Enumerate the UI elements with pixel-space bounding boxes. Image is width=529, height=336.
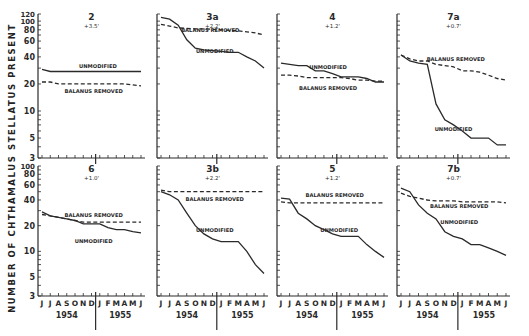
x-tick-label: J — [407, 299, 411, 308]
balanus-removed-line — [42, 82, 141, 86]
y-axis-label-text: NUMBER OF CHTHAMALUS STELLATUS PRESENT — [7, 23, 17, 313]
x-tick-label: A — [486, 299, 492, 308]
panel-title: 7b — [447, 164, 460, 174]
x-tick-label: O — [433, 299, 439, 308]
panel-title: 4 — [329, 12, 335, 22]
x-tick-label: J — [262, 299, 266, 308]
panel-6: 100806040201053JJASONDJFMAMJ195419556+1.… — [20, 163, 145, 330]
x-tick-label: N — [80, 299, 86, 308]
y-tick-label: 5 — [29, 273, 35, 282]
unmodified-label: UNMODIFIED — [440, 219, 478, 225]
unmodified-label: UNMODIFIED — [196, 48, 234, 54]
x-tick-label: F — [347, 299, 352, 308]
x-tick-label: J — [382, 299, 386, 308]
y-tick-label: 60 — [24, 181, 36, 190]
balanus-removed-line — [281, 202, 384, 203]
x-tick-label: J — [460, 299, 464, 308]
x-tick-label: M — [494, 299, 501, 308]
x-tick-label: M — [355, 299, 362, 308]
x-tick-label: A — [244, 299, 250, 308]
x-tick-label: A — [175, 299, 181, 308]
x-tick-label: A — [56, 299, 62, 308]
panel-title: 3b — [206, 164, 219, 174]
chart-figure: NUMBER OF CHTHAMALUS STELLATUS PRESENT 1… — [0, 0, 529, 336]
panel-7a: 7a+0.7'UNMODIFIEDBALANUS REMOVED — [397, 12, 510, 164]
panel-subtitle: +1.2' — [325, 175, 340, 181]
panel-subtitle: +0.7' — [446, 23, 461, 29]
balanus-removed-label: BALANUS REMOVED — [186, 196, 245, 202]
y-axis-label: NUMBER OF CHTHAMALUS STELLATUS PRESENT — [2, 0, 22, 336]
unmodified-line — [42, 69, 141, 71]
x-tick-label: D — [88, 299, 94, 308]
y-tick-label: 20 — [24, 222, 36, 231]
unmodified-label: UNMODIFIED — [196, 227, 234, 233]
x-tick-label: J — [219, 299, 223, 308]
year-label: 1955 — [351, 311, 374, 320]
y-tick-label: 80 — [24, 26, 36, 35]
balanus-removed-line — [161, 190, 264, 192]
x-tick-label: J — [279, 299, 283, 308]
x-tick-label: N — [442, 299, 448, 308]
x-tick-label: A — [295, 299, 301, 308]
panel-2: 1201008060402010532+3.5'UNMODIFIEDBALANU… — [20, 11, 145, 164]
balanus-removed-label: BALANUS REMOVED — [65, 88, 124, 94]
balanus-removed-label: BALANUS REMOVED — [181, 27, 240, 33]
x-tick-label: S — [425, 299, 430, 308]
year-label: 1954 — [56, 311, 79, 320]
panel-subtitle: +1.0' — [84, 175, 99, 181]
x-tick-label: N — [321, 299, 327, 308]
year-label: 1955 — [231, 311, 254, 320]
panel-subtitle: +1.2' — [325, 23, 340, 29]
unmodified-label: UNMODIFIED — [309, 64, 347, 70]
balanus-removed-line — [281, 75, 384, 81]
unmodified-label: UNMODIFIED — [320, 227, 358, 233]
panel-title: 7a — [447, 12, 459, 22]
x-tick-label: J — [399, 299, 403, 308]
y-tick-label: 80 — [24, 170, 36, 179]
unmodified-label: UNMODIFIED — [75, 238, 113, 244]
x-tick-label: F — [105, 299, 110, 308]
y-tick-label: 3 — [29, 154, 35, 163]
x-tick-label: M — [252, 299, 259, 308]
balanus-removed-label: BALANUS REMOVED — [65, 212, 124, 218]
balanus-removed-label: BALANUS REMOVED — [427, 56, 486, 62]
panel-title: 2 — [88, 12, 94, 22]
x-tick-label: O — [312, 299, 318, 308]
x-tick-label: A — [416, 299, 422, 308]
panel-3a: 3a+2.2'UNMODIFIEDBALANUS REMOVED — [157, 12, 268, 164]
x-tick-label: O — [192, 299, 198, 308]
balanus-removed-label: BALANUS REMOVED — [430, 203, 489, 209]
x-tick-label: D — [450, 299, 456, 308]
x-tick-label: F — [227, 299, 232, 308]
x-tick-label: J — [159, 299, 163, 308]
panel-title: 3a — [206, 12, 218, 22]
y-tick-label: 20 — [24, 80, 36, 89]
x-tick-label: J — [139, 299, 143, 308]
y-tick-label: 3 — [29, 292, 35, 301]
y-tick-label: 10 — [24, 107, 36, 116]
x-tick-label: S — [64, 299, 69, 308]
panel-5: JJASONDJFMAMJ195419555+1.2'UNMODIFIEDBAL… — [277, 164, 388, 330]
panel-7b: JJASONDJFMAMJ195419557b+0.7'UNMODIFIEDBA… — [397, 164, 510, 330]
x-tick-label: S — [184, 299, 189, 308]
x-tick-label: J — [287, 299, 291, 308]
balanus-removed-label: BALANUS REMOVED — [299, 85, 358, 91]
panel-subtitle: +0.7' — [446, 175, 461, 181]
x-tick-label: M — [476, 299, 483, 308]
x-tick-label: J — [339, 299, 343, 308]
y-tick-label: 10 — [24, 247, 36, 256]
year-label: 1954 — [176, 311, 199, 320]
x-tick-label: M — [235, 299, 242, 308]
unmodified-label: UNMODIFIED — [435, 126, 473, 132]
panel-4: 4+1.2'UNMODIFIEDBALANUS REMOVED — [277, 12, 388, 164]
x-tick-label: M — [372, 299, 379, 308]
x-tick-label: M — [129, 299, 136, 308]
x-tick-label: A — [122, 299, 128, 308]
unmodified-label: UNMODIFIED — [79, 63, 117, 69]
y-tick-label: 60 — [24, 37, 36, 46]
x-tick-label: O — [72, 299, 78, 308]
x-tick-label: J — [48, 299, 52, 308]
year-label: 1954 — [296, 311, 319, 320]
panel-title: 5 — [329, 164, 335, 174]
balanus-removed-label: BALANUS REMOVED — [306, 192, 365, 198]
